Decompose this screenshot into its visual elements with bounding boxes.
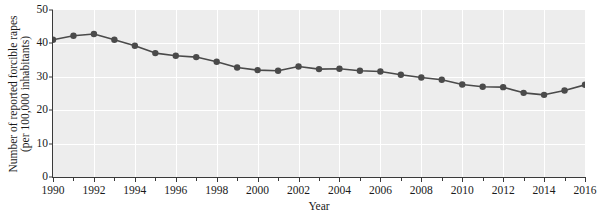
x-tick-mark [53,178,54,182]
data-point-marker [173,53,179,59]
x-tick-label: 1998 [195,184,239,197]
x-tick-label: 2012 [481,184,525,197]
chart-figure: Number of reported forcible rapes (per 1… [0,0,614,222]
x-tick-mark [585,178,586,182]
y-tick-label: 50 [26,4,48,16]
data-point-marker [520,90,526,96]
data-point-marker [479,84,485,90]
data-point-marker [275,68,281,74]
data-point-marker [336,66,342,72]
x-tick-mark [503,178,504,182]
plot-area [53,10,585,177]
x-tick-mark-minor [360,178,361,181]
x-tick-mark [94,178,95,182]
line-series [53,10,585,177]
data-point-marker [500,84,506,90]
data-point-marker [254,67,260,73]
data-point-marker [53,37,56,43]
x-tick-mark-minor [278,178,279,181]
data-point-marker [70,33,76,39]
data-point-marker [91,31,97,37]
data-point-marker [132,43,138,49]
x-tick-mark-minor [565,178,566,181]
x-axis-tick-labels: 1990199219941996199820002002200420062008… [53,184,585,200]
y-tick-label: 0 [26,171,48,183]
x-tick-mark [258,178,259,182]
data-point-marker [357,68,363,74]
data-point-marker [295,63,301,69]
x-tick-mark-minor [73,178,74,181]
x-tick-label: 1996 [154,184,198,197]
x-tick-mark [339,178,340,182]
x-tick-mark-minor [524,178,525,181]
y-axis-title-line-1: Number of reported forcible rapes [7,15,19,172]
x-tick-label: 1990 [31,184,75,197]
x-tick-label: 2010 [440,184,484,197]
y-tick-label: 10 [26,138,48,150]
x-tick-label: 2000 [236,184,280,197]
data-point-marker [213,59,219,65]
x-tick-mark [299,178,300,182]
data-point-marker [582,82,585,88]
x-tick-mark-minor [196,178,197,181]
data-point-marker [541,92,547,98]
data-point-marker [418,74,424,80]
y-tick-label: 30 [26,71,48,83]
data-point-marker [439,77,445,83]
y-tick-label: 20 [26,104,48,116]
x-tick-mark-minor [401,178,402,181]
x-tick-mark [462,178,463,182]
x-tick-label: 1994 [113,184,157,197]
x-tick-mark [421,178,422,182]
x-tick-label: 2002 [277,184,321,197]
x-tick-label: 1992 [72,184,116,197]
x-tick-mark-minor [319,178,320,181]
x-tick-mark [176,178,177,182]
data-point-marker [459,81,465,87]
data-point-marker [111,37,117,43]
x-tick-mark-minor [114,178,115,181]
x-tick-mark-minor [237,178,238,181]
x-tick-mark [544,178,545,182]
x-tick-label: 2016 [563,184,607,197]
x-tick-mark [135,178,136,182]
x-tick-mark-minor [442,178,443,181]
data-point-marker [152,50,158,56]
x-tick-label: 2008 [399,184,443,197]
data-point-marker [234,64,240,70]
x-axis-title: Year [53,200,585,212]
x-tick-label: 2014 [522,184,566,197]
x-tick-label: 2004 [317,184,361,197]
x-tick-mark-minor [155,178,156,181]
data-point-marker [377,68,383,74]
data-point-marker [398,72,404,78]
x-tick-mark-minor [483,178,484,181]
y-tick-label: 40 [26,38,48,50]
data-point-marker [193,54,199,60]
x-tick-mark [217,178,218,182]
x-tick-mark [380,178,381,182]
data-point-marker [316,66,322,72]
x-axis-tick-marks [53,178,585,182]
x-tick-label: 2006 [358,184,402,197]
data-point-marker [561,87,567,93]
